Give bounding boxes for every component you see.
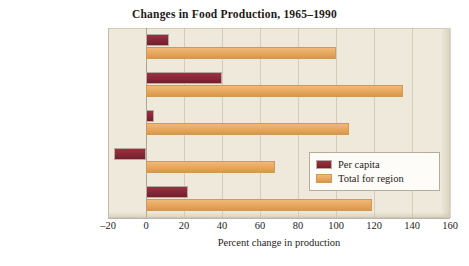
x-axis-tick-label: 160 xyxy=(442,220,458,231)
bar-total-for-region xyxy=(146,47,336,59)
bar-per-capita xyxy=(146,34,169,46)
bar-total-for-region xyxy=(146,123,349,135)
chart-legend: Per capita Total for region xyxy=(309,152,440,191)
chart-figure: Changes in Food Production, 1965–1990 La… xyxy=(0,0,469,266)
bar-per-capita xyxy=(146,186,188,198)
legend-swatch-per-capita-icon xyxy=(316,160,332,169)
x-axis-tick-label: 100 xyxy=(328,220,344,231)
legend-label-per-capita: Per capita xyxy=(338,159,380,170)
plot-edge-shading-right xyxy=(441,28,450,218)
legend-swatch-total-for-region-icon xyxy=(316,174,332,183)
x-axis-tick-label: 80 xyxy=(293,220,304,231)
x-axis-tick-label: 120 xyxy=(366,220,382,231)
legend-item-total-for-region: Total for region xyxy=(316,171,433,185)
x-axis-tick-label: 140 xyxy=(404,220,420,231)
x-axis-tick-label: 40 xyxy=(217,220,228,231)
legend-label-total-for-region: Total for region xyxy=(338,173,404,184)
bar-per-capita xyxy=(114,148,146,160)
bar-total-for-region xyxy=(146,161,275,173)
x-axis-tick-label: –20 xyxy=(100,220,116,231)
legend-item-per-capita: Per capita xyxy=(316,157,433,171)
bar-per-capita xyxy=(146,72,222,84)
bar-per-capita xyxy=(146,110,154,122)
bar-total-for-region xyxy=(146,199,372,211)
bar-total-for-region xyxy=(146,85,403,97)
x-axis-tick-label: 20 xyxy=(179,220,190,231)
x-axis-line xyxy=(108,218,450,219)
gridline xyxy=(450,28,451,218)
gridline xyxy=(108,28,109,218)
x-axis-tick-label: 60 xyxy=(255,220,266,231)
x-axis-tick-label: 0 xyxy=(143,220,148,231)
x-axis-title: Percent change in production xyxy=(108,237,450,248)
chart-title: Changes in Food Production, 1965–1990 xyxy=(0,8,469,20)
